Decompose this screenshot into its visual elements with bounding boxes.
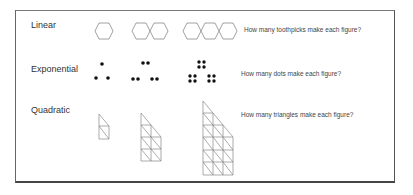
question-linear: How many toothpicks make each figure? — [244, 26, 361, 33]
hexagon-figure-1-icon — [94, 22, 114, 40]
row-label-quadratic: Quadratic — [31, 105, 70, 115]
hexagon-figure-2-icon — [131, 22, 169, 40]
question-quadratic: How many triangles make each figure? — [241, 111, 353, 118]
triangle-figure-3-icon — [202, 100, 234, 176]
triangle-figure-2-icon — [140, 112, 162, 162]
dot-figure-1-icon — [93, 60, 115, 82]
hexagon-figure-3-icon — [182, 22, 238, 40]
triangle-figure-1-icon — [98, 113, 110, 140]
row-label-exponential: Exponential — [31, 64, 78, 74]
question-exponential: How many dots make each figure? — [241, 70, 341, 77]
dot-figure-3-icon — [187, 58, 217, 86]
dot-figure-2-icon — [128, 58, 164, 84]
row-label-linear: Linear — [31, 20, 56, 30]
